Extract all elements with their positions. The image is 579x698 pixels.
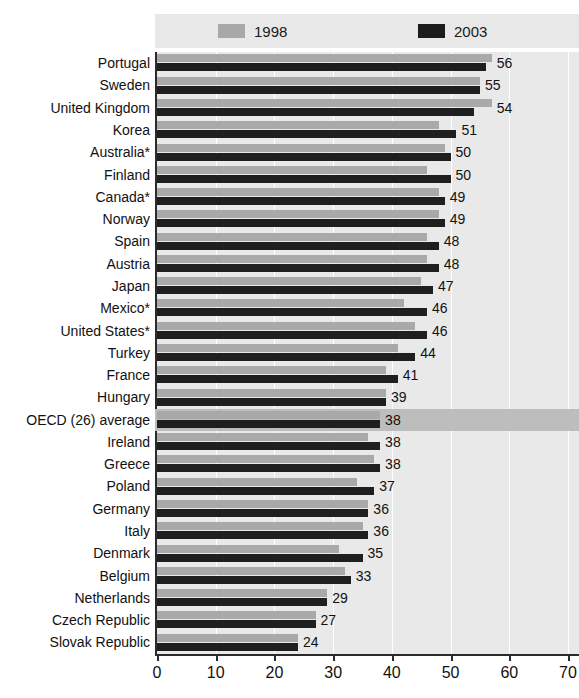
bar-2003 (157, 620, 316, 628)
bar-group: 49 (157, 186, 579, 208)
category-label: Netherlands (0, 590, 150, 605)
bar-row: United Kingdom54 (0, 97, 579, 119)
legend-entry-1998: 1998 (218, 22, 287, 40)
bar-value-label: 56 (497, 56, 513, 70)
legend-label-2003: 2003 (454, 24, 487, 39)
bar-value-label: 51 (461, 123, 477, 137)
bar-row: Australia*50 (0, 141, 579, 163)
bar-value-label: 50 (456, 168, 472, 182)
bar-value-label: 38 (385, 435, 401, 449)
bar-group: 38 (157, 409, 579, 431)
x-tick-label-50: 50 (442, 665, 460, 681)
x-tick-40 (392, 654, 394, 661)
category-label: Germany (0, 501, 150, 516)
bar-group: 50 (157, 163, 579, 185)
bar-row: Mexico*46 (0, 297, 579, 319)
bar-value-label: 41 (403, 368, 419, 382)
legend-swatch-2003-icon (418, 24, 445, 38)
category-label: Hungary (0, 390, 150, 405)
bar-row: Greece38 (0, 453, 579, 475)
bar-group: 33 (157, 564, 579, 586)
category-label: Australia* (0, 145, 150, 160)
bar-1998 (157, 478, 357, 486)
bar-group: 37 (157, 475, 579, 497)
bar-group: 47 (157, 275, 579, 297)
bar-row: Austria48 (0, 253, 579, 275)
bar-row: Belgium33 (0, 564, 579, 586)
bar-1998 (157, 166, 427, 174)
bar-value-label: 29 (332, 591, 348, 605)
bar-group: 27 (157, 609, 579, 631)
bar-row: Italy36 (0, 520, 579, 542)
bar-value-label: 39 (391, 390, 407, 404)
bar-value-label: 35 (368, 546, 384, 560)
bar-value-label: 36 (373, 524, 389, 538)
bar-1998 (157, 634, 298, 642)
bar-group: 36 (157, 498, 579, 520)
category-label: Austria (0, 256, 150, 271)
bar-row: Japan47 (0, 275, 579, 297)
bar-1998 (157, 144, 445, 152)
bar-1998 (157, 344, 398, 352)
x-tick-label-40: 40 (383, 665, 401, 681)
bar-value-label: 48 (444, 257, 460, 271)
bar-row: Denmark35 (0, 542, 579, 564)
category-label: Spain (0, 234, 150, 249)
category-label: Finland (0, 167, 150, 182)
bar-value-label: 38 (385, 413, 401, 427)
bar-2003 (157, 398, 386, 406)
bar-value-label: 47 (438, 279, 454, 293)
bar-2003 (157, 487, 374, 495)
bar-1998 (157, 455, 374, 463)
bar-1998 (157, 522, 363, 530)
category-label: OECD (26) average (0, 412, 150, 427)
bar-value-label: 46 (432, 324, 448, 338)
bar-1998 (157, 121, 439, 129)
x-tick-10 (216, 654, 218, 661)
x-tick-50 (451, 654, 453, 661)
bar-1998 (157, 500, 368, 508)
bar-2003 (157, 219, 445, 227)
bar-value-label: 37 (379, 479, 395, 493)
category-label: Slovak Republic (0, 635, 150, 650)
bar-value-label: 49 (450, 212, 466, 226)
bar-group: 39 (157, 386, 579, 408)
bar-row: Netherlands29 (0, 587, 579, 609)
x-tick-0 (157, 654, 159, 661)
bar-group: 36 (157, 520, 579, 542)
category-label: Mexico* (0, 301, 150, 316)
bar-group: 48 (157, 253, 579, 275)
bar-1998 (157, 366, 386, 374)
x-axis: 010203040506070 (0, 654, 579, 698)
bar-1998 (157, 77, 480, 85)
bar-1998 (157, 322, 415, 330)
bar-row: Germany36 (0, 498, 579, 520)
bar-group: 24 (157, 631, 579, 653)
bar-value-label: 50 (456, 145, 472, 159)
bar-row: Turkey44 (0, 342, 579, 364)
bar-value-label: 33 (356, 569, 372, 583)
category-label: Denmark (0, 546, 150, 561)
bar-group: 38 (157, 453, 579, 475)
category-label: Poland (0, 479, 150, 494)
bar-1998 (157, 277, 421, 285)
bar-row: Norway49 (0, 208, 579, 230)
bar-value-label: 36 (373, 502, 389, 516)
bar-2003 (157, 175, 451, 183)
legend-swatch-1998-icon (218, 24, 245, 38)
bar-2003 (157, 420, 380, 428)
bar-2003 (157, 130, 456, 138)
bar-group: 50 (157, 141, 579, 163)
bar-2003 (157, 63, 486, 71)
bar-2003 (157, 286, 433, 294)
bar-row: Slovak Republic24 (0, 631, 579, 653)
category-label: Korea (0, 122, 150, 137)
bar-2003 (157, 331, 427, 339)
bar-value-label: 48 (444, 234, 460, 248)
category-label: Belgium (0, 568, 150, 583)
bar-1998 (157, 545, 339, 553)
category-label: Czech Republic (0, 613, 150, 628)
bar-value-label: 54 (497, 101, 513, 115)
bar-group: 55 (157, 74, 579, 96)
bar-2003 (157, 153, 451, 161)
